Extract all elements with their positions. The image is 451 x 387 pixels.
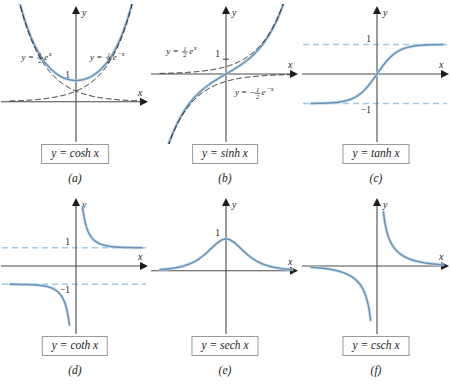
y-axis-arrowhead <box>72 198 80 206</box>
y-tick-label: 1 <box>366 34 371 44</box>
x-axis-arrowhead <box>290 70 298 78</box>
curve-halo <box>83 207 142 248</box>
svg-text:y =: y = <box>165 46 178 56</box>
y-axis-arrowhead <box>72 6 80 14</box>
x-axis-label: x <box>438 251 444 262</box>
curve-y-csch-x-x-0- <box>311 267 371 320</box>
plot-coth: xy1−1 <box>0 196 150 336</box>
y-axis-label: y <box>81 7 87 18</box>
curve-halo <box>311 267 371 320</box>
lower-exponential-label: y = −12e−x <box>234 85 274 99</box>
svg-text:y = −: y = − <box>234 87 256 97</box>
svg-text:x: x <box>48 50 52 57</box>
plot-sinh: xy1y = 12exy = −12e−x <box>150 4 300 144</box>
svg-text:y =: y = <box>89 52 102 62</box>
x-axis-arrowhead <box>140 262 148 270</box>
function-label-sinh: y = sinh x <box>192 144 258 164</box>
x-axis-arrowhead <box>140 98 148 106</box>
function-label-csch: y = csch x <box>342 336 409 356</box>
panel-caption-cosh: (a) <box>68 172 81 184</box>
panel-coth: xy1−1y = coth x(d) <box>0 196 150 387</box>
y-axis-label: y <box>382 7 388 18</box>
y-axis-label: y <box>231 7 237 18</box>
panel-sech: xy1y = sech x(e) <box>150 196 300 387</box>
panel-sinh: xy1y = 12exy = −12e−xy = sinh x(b) <box>150 4 300 197</box>
x-axis-arrowhead <box>441 70 449 78</box>
plot-cosh: xy1y = 12exy = 12e−x <box>0 4 150 144</box>
svg-text:−x: −x <box>266 85 273 92</box>
panel-caption-csch: (f) <box>371 364 382 376</box>
panel-caption-sech: (e) <box>219 364 232 376</box>
svg-text:e: e <box>44 52 48 62</box>
y-axis-label: y <box>231 199 237 210</box>
panel-tanh: xy1−1y = tanh x(c) <box>301 4 451 197</box>
plot-csch: xy <box>301 196 451 336</box>
panel-cosh: xy1y = 12exy = 12e−xy = cosh x(a) <box>0 4 150 197</box>
x-axis-label: x <box>137 87 143 98</box>
svg-text:y =: y = <box>20 52 33 62</box>
plot-sech: xy1 <box>150 196 300 336</box>
function-label-sech: y = sech x <box>191 336 258 356</box>
x-axis-label: x <box>438 59 444 70</box>
right-exponential-label: y = 12e−x <box>89 50 125 64</box>
panel-csch: xyy = csch x(f) <box>301 196 451 387</box>
panel-caption-tanh: (c) <box>370 172 383 184</box>
panel-caption-sinh: (b) <box>218 172 231 184</box>
svg-text:e: e <box>113 52 117 62</box>
plot-tanh: xy1−1 <box>301 4 451 144</box>
curve-y-coth-x-x-0- <box>83 207 142 248</box>
x-axis-label: x <box>137 251 143 262</box>
upper-exponential-label: y = 12ex <box>165 44 196 58</box>
x-axis-label: x <box>287 256 293 267</box>
svg-text:e: e <box>189 46 193 56</box>
y-tick-label: 1 <box>215 49 220 59</box>
hyperbolic-functions-figure: xy1y = 12exy = 12e−xy = cosh x(a)xy1y = … <box>0 0 451 387</box>
y-axis-arrowhead <box>222 198 230 206</box>
x-axis-label: x <box>287 59 293 70</box>
y-axis-arrowhead <box>222 6 230 14</box>
y-axis-arrowhead <box>373 198 381 206</box>
y-axis-arrowhead <box>373 6 381 14</box>
function-label-cosh: y = cosh x <box>41 144 109 164</box>
left-exponential-label: y = 12ex <box>20 50 51 64</box>
function-label-tanh: y = tanh x <box>342 144 409 164</box>
y-tick-label: −1 <box>361 105 371 115</box>
y-axis-label: y <box>382 199 388 210</box>
svg-text:e: e <box>262 87 266 97</box>
curve-halo <box>383 212 443 265</box>
svg-text:−x: −x <box>117 50 124 57</box>
y-tick-label: 1 <box>215 228 220 238</box>
svg-text:x: x <box>193 44 197 51</box>
panel-caption-coth: (d) <box>68 364 81 376</box>
function-label-coth: y = coth x <box>42 336 108 356</box>
y-tick-label: 1 <box>65 237 70 247</box>
curve-y-csch-x-x-0- <box>383 212 443 265</box>
